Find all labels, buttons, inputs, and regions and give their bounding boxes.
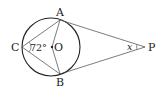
label-a: A [55, 6, 65, 19]
label-p: P [148, 41, 156, 54]
angle-p-value: x [127, 41, 133, 52]
label-o: O [54, 41, 63, 54]
angle-c-value: 72° [30, 42, 47, 53]
geometry-diagram: A B C O P 72° x [0, 0, 165, 93]
center-dot [51, 46, 53, 48]
label-c: C [11, 41, 19, 54]
label-b: B [56, 76, 64, 89]
